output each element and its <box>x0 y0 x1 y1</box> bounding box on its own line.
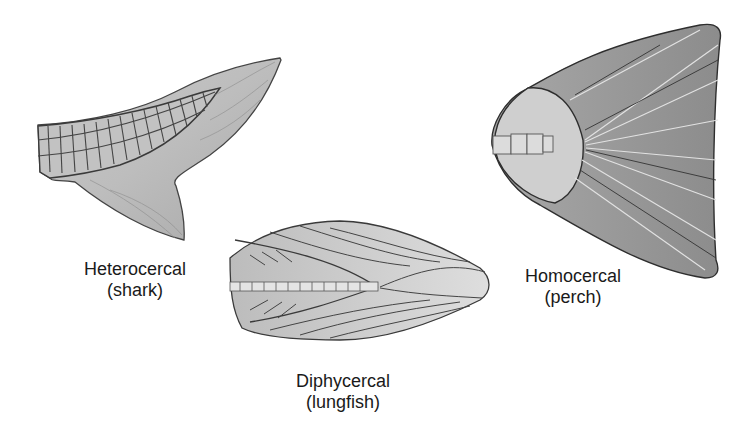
heterocercal-name: Heterocercal <box>70 259 200 280</box>
diphycercal-example: (lungfish) <box>278 392 408 413</box>
homocercal-name: Homocercal <box>508 266 638 287</box>
homocercal-tail-illustration <box>492 24 721 278</box>
heterocercal-label: Heterocercal (shark) <box>70 259 200 301</box>
homocercal-example: (perch) <box>508 287 638 308</box>
heterocercal-tail-illustration <box>38 58 281 240</box>
diphycercal-label: Diphycercal (lungfish) <box>278 371 408 413</box>
heterocercal-example: (shark) <box>70 280 200 301</box>
homocercal-label: Homocercal (perch) <box>508 266 638 308</box>
diphycercal-name: Diphycercal <box>278 371 408 392</box>
diphycercal-tail-illustration <box>230 221 489 340</box>
